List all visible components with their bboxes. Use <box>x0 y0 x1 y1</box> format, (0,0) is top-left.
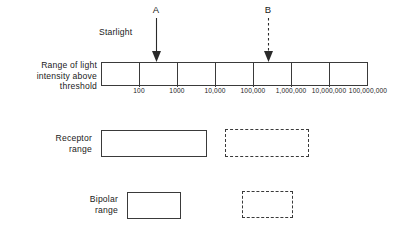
axis-row-label-line2: intensity above <box>7 71 97 82</box>
receptor-range-label: Receptor range <box>12 133 92 154</box>
intensity-scale-bar <box>101 62 368 86</box>
arrow-b-icon <box>260 18 277 64</box>
bipolar-range-label-line2: range <box>38 205 118 216</box>
bipolar-range-label-line1: Bipolar <box>38 194 118 205</box>
light-intensity-diagram: Range of light intensity above threshold… <box>0 0 418 236</box>
scale-divider <box>253 63 254 87</box>
scale-divider <box>215 63 216 87</box>
bipolar-range-label: Bipolar range <box>38 194 118 215</box>
axis-row-label-line3: threshold <box>7 81 97 92</box>
starlight-label: Starlight <box>99 28 132 38</box>
scale-tick-label: 100,000,000 <box>349 87 387 95</box>
scale-divider <box>139 63 140 87</box>
scale-divider <box>329 63 330 87</box>
receptor-range-label-line1: Receptor <box>12 133 92 144</box>
receptor-solid-box <box>101 130 207 157</box>
bipolar-solid-box <box>127 192 181 219</box>
scale-tick-label: 100 <box>133 87 144 95</box>
arrow-a-icon <box>148 18 165 64</box>
scale-tick-label: 100,000 <box>241 87 266 95</box>
arrow-a-letter: A <box>153 5 160 16</box>
scale-tick-label: 10,000 <box>204 87 225 95</box>
scale-tick-label: 1000 <box>169 87 184 95</box>
axis-row-label-line1: Range of light <box>7 60 97 71</box>
bipolar-dashed-box <box>242 191 293 218</box>
arrow-b-letter: B <box>265 5 272 16</box>
receptor-dashed-box <box>225 129 309 157</box>
scale-divider <box>177 63 178 87</box>
scale-tick-label: 1,000,000 <box>276 87 307 95</box>
scale-divider <box>291 63 292 87</box>
scale-tick-label: 10,000,000 <box>312 87 347 95</box>
axis-row-label: Range of light intensity above threshold <box>7 60 97 92</box>
receptor-range-label-line2: range <box>12 144 92 155</box>
